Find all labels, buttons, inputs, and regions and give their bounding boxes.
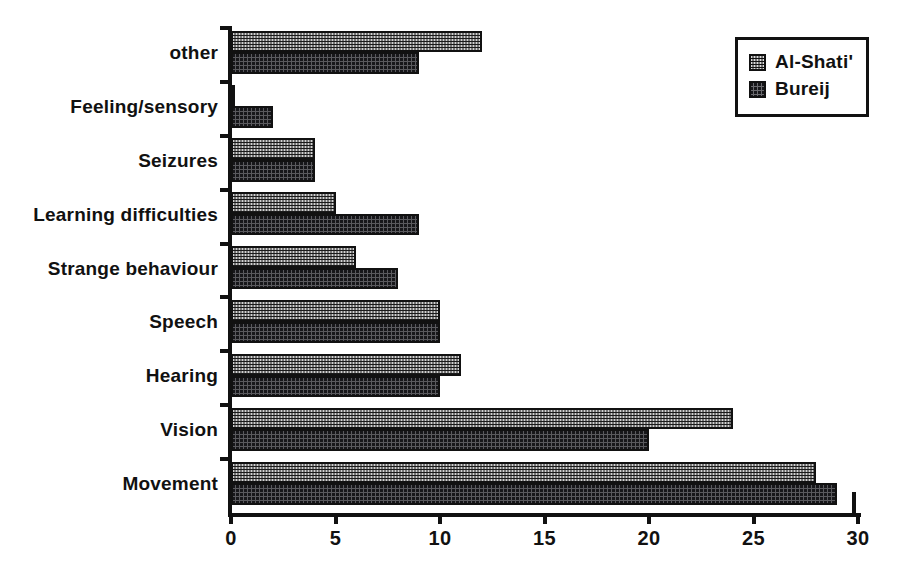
y-axis-label-vision: Vision xyxy=(6,419,228,441)
y-axis-label-hearing: Hearing xyxy=(6,365,228,387)
y-axis-label-other: other xyxy=(6,42,228,64)
bar-bureij-seizures xyxy=(231,160,315,182)
y-axis-tick xyxy=(220,457,231,461)
bar-al-shati--seizures xyxy=(231,138,315,160)
y-axis-label-seizures: Seizures xyxy=(6,150,228,172)
y-axis-tick xyxy=(220,242,231,246)
y-axis-tick xyxy=(220,349,231,353)
y-axis-label-learning-difficulties: Learning difficulties xyxy=(6,204,228,226)
x-axis-tick-label: 5 xyxy=(306,527,366,550)
x-axis-tick xyxy=(229,513,233,524)
bar-al-shati--strange-behaviour xyxy=(231,246,356,268)
x-axis-tick xyxy=(438,513,442,524)
chart-legend: Al-Shati' Bureij xyxy=(735,37,869,117)
legend-item-al-shati: Al-Shati' xyxy=(749,51,853,73)
legend-item-bureij: Bureij xyxy=(749,78,853,100)
bar-chart: MovementVisionHearingSpeechStrange behav… xyxy=(0,0,900,581)
bar-bureij-movement xyxy=(231,483,837,505)
bar-bureij-hearing xyxy=(231,376,440,398)
bar-bureij-vision xyxy=(231,429,649,451)
bar-bureij-strange-behaviour xyxy=(231,268,398,290)
bar-al-shati--hearing xyxy=(231,354,461,376)
x-axis-tick-label: 15 xyxy=(515,527,575,550)
bar-al-shati--movement xyxy=(231,462,816,484)
y-axis-label-strange-behaviour: Strange behaviour xyxy=(6,258,228,280)
y-axis-tick xyxy=(220,80,231,84)
x-axis-tick-label: 0 xyxy=(201,527,261,550)
y-axis-tick xyxy=(220,134,231,138)
bar-al-shati--feeling-sensory xyxy=(231,85,235,107)
y-axis-label-movement: Movement xyxy=(6,473,228,495)
legend-label-al-shati: Al-Shati' xyxy=(775,51,853,73)
x-axis-tick-label: 25 xyxy=(724,527,784,550)
bar-bureij-feeling-sensory xyxy=(231,106,273,128)
x-axis-tick-label: 10 xyxy=(410,527,470,550)
x-axis-tick xyxy=(856,513,860,524)
x-axis-tick xyxy=(752,513,756,524)
y-axis-labels: MovementVisionHearingSpeechStrange behav… xyxy=(0,0,228,581)
legend-swatch-al-shati-icon xyxy=(749,54,766,71)
bar-al-shati--speech xyxy=(231,300,440,322)
x-axis-tick xyxy=(543,513,547,524)
bar-al-shati--other xyxy=(231,31,482,53)
bar-bureij-speech xyxy=(231,322,440,344)
bar-al-shati--vision xyxy=(231,408,733,430)
bar-bureij-other xyxy=(231,52,419,74)
legend-swatch-bureij-icon xyxy=(749,81,766,98)
bar-al-shati--learning-difficulties xyxy=(231,192,336,214)
y-axis-label-speech: Speech xyxy=(6,311,228,333)
x-axis-tick xyxy=(334,513,338,524)
y-axis-tick xyxy=(220,295,231,299)
legend-label-bureij: Bureij xyxy=(775,78,830,100)
x-axis-tick-label: 30 xyxy=(828,527,888,550)
x-axis-tick xyxy=(647,513,651,524)
y-axis-label-feeling-sensory: Feeling/sensory xyxy=(6,96,228,118)
y-axis-tick xyxy=(220,26,231,30)
bar-bureij-learning-difficulties xyxy=(231,214,419,236)
x-axis-tick-label: 20 xyxy=(619,527,679,550)
y-axis-tick xyxy=(220,188,231,192)
y-axis-tick xyxy=(220,403,231,407)
